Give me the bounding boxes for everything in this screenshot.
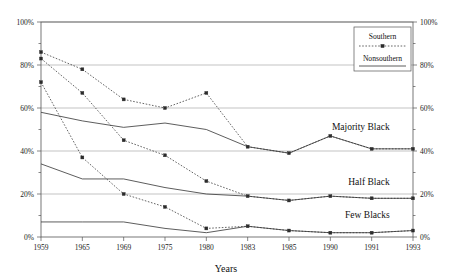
chart-figure: 0%0%20%20%40%40%60%60%80%80%100%100% 195… (0, 0, 451, 280)
series-line-5 (41, 222, 413, 233)
y-axis-tick-label: 40% (20, 147, 34, 156)
series-annotation: Few Blacks (345, 210, 390, 220)
series-layer (40, 51, 415, 235)
series-annotation: Half Black (348, 177, 390, 187)
data-point (205, 227, 208, 230)
data-point (40, 57, 43, 60)
y-axis-tick-label: 80% (20, 61, 34, 70)
chart-canvas: 0%0%20%20%40%40%60%60%80%80%100%100% 195… (0, 0, 451, 280)
series-annotations: Majority BlackHalf BlackFew Blacks (332, 122, 390, 220)
legend-marker-southern (381, 44, 384, 47)
x-axis-tick-label: 1991 (364, 243, 379, 252)
x-axis-tick-label: 1990 (323, 243, 338, 252)
y-axis-tick-label-right: 40% (420, 147, 434, 156)
x-axis-title: Years (215, 263, 237, 274)
x-axis-tick-label: 1959 (34, 243, 49, 252)
x-axis-tick-label: 1975 (158, 243, 173, 252)
legend-label-nonsouthern: Nonsouthern (363, 54, 402, 63)
data-point (164, 205, 167, 208)
data-point (205, 91, 208, 94)
y-axis-tick-label: 0% (24, 233, 34, 242)
y-axis-tick-label-right: 20% (420, 190, 434, 199)
x-axis-tick-label: 1993 (406, 243, 421, 252)
y-axis-tick-label-right: 60% (420, 104, 434, 113)
y-axis-tick-label-right: 80% (420, 61, 434, 70)
y-axis-tick-label: 100% (17, 18, 35, 27)
x-axis-tick-label: 1980 (199, 243, 214, 252)
data-point (81, 156, 84, 159)
data-point (40, 81, 43, 84)
data-point (205, 180, 208, 183)
data-point (164, 107, 167, 110)
legend-label-southern: Southern (369, 32, 397, 41)
x-axis-tick-label: 1965 (75, 243, 90, 252)
y-axis-tick-label: 20% (20, 190, 34, 199)
data-point (164, 154, 167, 157)
data-point (40, 51, 43, 54)
series-annotation: Majority Black (332, 122, 390, 132)
x-axis-tick-label: 1983 (240, 243, 255, 252)
data-point (122, 193, 125, 196)
data-point (81, 68, 84, 71)
data-point (122, 98, 125, 101)
x-axis-tick-label: 1969 (116, 243, 131, 252)
y-axis-tick-label-right: 0% (420, 233, 430, 242)
y-axis-tick-label: 60% (20, 104, 34, 113)
y-axis-tick-label-right: 100% (420, 18, 438, 27)
series-line-1 (41, 112, 413, 153)
chart-legend: SouthernNonsouthern (354, 27, 411, 71)
x-axis-labels: 1959196519691975198019831985199019911993 (34, 243, 421, 252)
x-axis-tick-label: 1985 (282, 243, 297, 252)
data-point (122, 139, 125, 142)
data-point (81, 91, 84, 94)
